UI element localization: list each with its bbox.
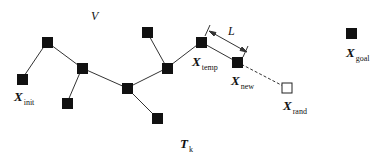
node-x-temp bbox=[196, 37, 207, 48]
node-a bbox=[42, 37, 53, 48]
node-x-rand bbox=[282, 83, 292, 93]
node-b bbox=[77, 63, 88, 74]
node-c bbox=[62, 98, 73, 109]
label-x-new: Xnew bbox=[231, 72, 254, 91]
edge-b-f bbox=[82, 68, 127, 88]
node-x-goal bbox=[346, 28, 357, 39]
tree-label-tk: Tk bbox=[180, 135, 193, 154]
node-f bbox=[122, 83, 133, 94]
node-e bbox=[162, 63, 173, 74]
step-length-label: L bbox=[228, 25, 235, 37]
label-x-init: Xinit bbox=[14, 88, 34, 107]
space-label-v: V bbox=[91, 10, 98, 22]
label-x-rand: Xrand bbox=[283, 97, 307, 116]
label-x-temp: Xtemp bbox=[192, 53, 218, 72]
node-x-init bbox=[17, 74, 28, 85]
rrt-diagram bbox=[0, 0, 380, 155]
node-x-new bbox=[232, 57, 243, 68]
arrowhead-start-icon bbox=[209, 31, 216, 36]
node-g bbox=[152, 113, 163, 124]
label-x-goal: Xgoal bbox=[346, 44, 369, 63]
node-d bbox=[142, 27, 153, 38]
dimension-tick-temp bbox=[205, 25, 210, 36]
